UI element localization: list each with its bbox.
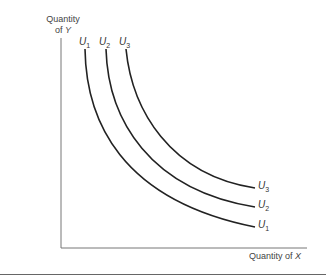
curve-label-u1-end: U1: [258, 219, 269, 232]
bottom-rule: [0, 274, 326, 275]
curve-label-u2-top: U2: [99, 36, 110, 49]
curve-label-u1-top: U1: [79, 36, 90, 49]
x-axis-label: Quantity of X: [249, 251, 301, 261]
curve-label-u3-top: U3: [119, 36, 130, 49]
curve-u1: [85, 49, 255, 227]
x-axis-label-prefix: Quantity of: [249, 251, 293, 261]
curve-label-u3-end: U3: [258, 180, 269, 193]
curve-label-u2-end: U2: [258, 199, 269, 212]
indifference-curve-diagram: [0, 0, 326, 280]
curve-u3: [126, 49, 255, 188]
x-axis-variable: X: [295, 251, 301, 261]
